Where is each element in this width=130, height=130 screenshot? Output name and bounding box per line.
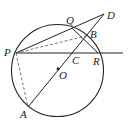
label-o: O	[59, 69, 67, 81]
label-q: Q	[66, 14, 74, 26]
dashed-pb	[16, 36, 86, 53]
label-a: A	[19, 108, 27, 120]
label-c: C	[72, 54, 80, 66]
geometry-diagram: P Q D B C R O A	[0, 0, 130, 130]
label-p: P	[3, 46, 11, 58]
label-r: R	[92, 55, 100, 67]
label-b: B	[90, 28, 97, 40]
label-d: D	[106, 9, 115, 21]
